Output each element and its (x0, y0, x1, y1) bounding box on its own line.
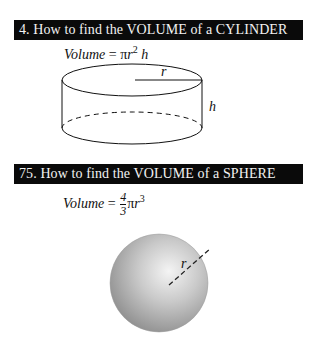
formula-exponent: 3 (140, 193, 145, 204)
sphere-volume-formula: Volume = 4 3 πr3 (63, 191, 145, 218)
sphere-body (110, 234, 208, 332)
cylinder-diagram: r h (62, 64, 216, 144)
cylinder-height-label: h (209, 99, 216, 114)
cylinder-bottom-back-dashed (62, 112, 202, 128)
cylinder-bottom-front (62, 128, 202, 144)
sphere-section-heading: 75. How to find the VOLUME of a SPHERE (14, 164, 303, 184)
cylinder-radius-label: r (161, 64, 167, 79)
fraction-denominator: 3 (120, 205, 126, 218)
sphere-diagram: r (110, 234, 211, 332)
formula-fraction: 4 3 (120, 191, 126, 218)
fraction-numerator: 4 (120, 191, 126, 204)
sphere-radius-label: r (181, 256, 187, 271)
formula-lhs: Volume (63, 196, 104, 211)
formula-equals: = (108, 196, 116, 211)
